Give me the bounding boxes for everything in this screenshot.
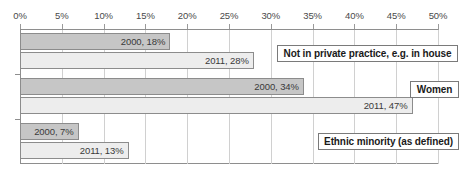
category-tick-1	[15, 74, 20, 75]
bar-label-ethnic-minority-2011: 2011, 13%	[80, 145, 128, 156]
x-tick-label-9: 45%	[387, 10, 406, 21]
bar-not-in-private-practice-2000[interactable]: 2000, 18%	[20, 33, 170, 50]
x-tick-label-7: 35%	[303, 10, 322, 21]
x-tick-label-4: 20%	[178, 10, 197, 21]
bar-label-ethnic-minority-2000: 2000, 7%	[34, 126, 77, 137]
bar-women-2000[interactable]: 2000, 34%	[20, 78, 304, 95]
bar-ethnic-minority-2011[interactable]: 2011, 13%	[20, 142, 129, 159]
horizontal-bar-chart: 0% 5% 10% 15% 20% 25% 30% 35% 40% 45% 50…	[0, 0, 472, 174]
x-tick-label-2: 10%	[94, 10, 113, 21]
x-tick-label-0: 0%	[13, 10, 27, 21]
callout-label-ethnic-minority: Ethnic minority (as defined)	[324, 136, 453, 147]
x-tick-label-3: 15%	[136, 10, 155, 21]
bar-not-in-private-practice-2011[interactable]: 2011, 28%	[20, 52, 254, 69]
bar-label-not-in-private-practice-2000: 2000, 18%	[121, 36, 170, 47]
bar-women-2011[interactable]: 2011, 47%	[20, 97, 413, 114]
callout-ethnic-minority: Ethnic minority (as defined)	[318, 133, 459, 150]
x-axis: 0% 5% 10% 15% 20% 25% 30% 35% 40% 45% 50…	[0, 0, 472, 30]
bar-label-women-2000: 2000, 34%	[254, 81, 303, 92]
x-tick-label-1: 5%	[55, 10, 69, 21]
callout-not-in-private-practice: Not in private practice, e.g. in house	[277, 45, 458, 62]
callout-women: Women	[410, 81, 459, 98]
x-tick-label-6: 30%	[261, 10, 280, 21]
bar-ethnic-minority-2000[interactable]: 2000, 7%	[20, 123, 79, 140]
callout-label-women: Women	[417, 84, 452, 95]
category-tick-2	[15, 119, 20, 120]
bar-label-not-in-private-practice-2011: 2011, 28%	[205, 55, 253, 66]
bar-label-women-2011: 2011, 47%	[364, 100, 412, 111]
x-tick-label-10: 50%	[429, 10, 448, 21]
x-tick-label-8: 40%	[345, 10, 364, 21]
callout-label-not-in-private-practice: Not in private practice, e.g. in house	[284, 48, 452, 59]
x-tick-label-5: 25%	[220, 10, 239, 21]
